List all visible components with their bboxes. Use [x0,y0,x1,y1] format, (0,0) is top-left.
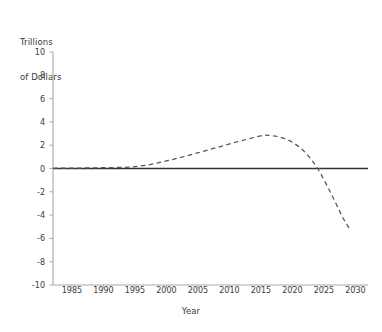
y-tick-label: -2 [0,187,45,196]
plot-area [0,0,382,332]
x-tick-label: 2005 [188,286,208,295]
y-tick-label: -8 [0,257,45,266]
x-tick-label: 2000 [156,286,176,295]
x-tick-label: 1995 [125,286,145,295]
x-tick-label: 1985 [62,286,82,295]
y-tick-label: 2 [0,141,45,150]
y-tick-label: 0 [0,164,45,173]
y-tick-label: 8 [0,71,45,80]
x-tick-label: 1990 [93,286,113,295]
x-tick-label: 2025 [314,286,334,295]
x-tick-label: 2020 [282,286,302,295]
chart-figure: Trillions of Dollars 1086420-2-4-6-8-10 … [0,0,382,332]
y-tick-label: 10 [0,48,45,57]
y-tick-label: -10 [0,281,45,290]
x-tick-label: 2015 [251,286,271,295]
y-tick-label: -4 [0,211,45,220]
y-tick-label: -6 [0,234,45,243]
y-tick-label: 4 [0,117,45,126]
data-series-line [53,135,349,228]
x-tick-label: 2030 [345,286,365,295]
x-tick-label: 2010 [219,286,239,295]
y-tick-label: 6 [0,94,45,103]
x-axis-title: Year [0,306,382,318]
